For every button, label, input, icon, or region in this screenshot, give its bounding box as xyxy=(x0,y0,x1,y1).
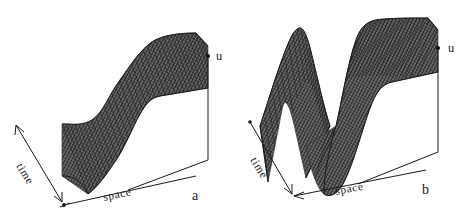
axis-u-a-arrowhead xyxy=(206,54,210,58)
panel-a: u space time a xyxy=(0,0,236,218)
panel-b: u space time b xyxy=(236,0,472,218)
surface-a xyxy=(62,33,229,196)
panel-b-letter: b xyxy=(422,182,430,197)
axis-u-b-label: u xyxy=(448,41,455,55)
axis-u-a-label: u xyxy=(216,49,223,63)
axis-u-b: u xyxy=(436,41,455,152)
panel-a-base-right xyxy=(128,160,208,190)
axis-time-a-label: time xyxy=(14,161,36,187)
axis-u-b-arrowhead xyxy=(436,46,440,50)
axis-time-b-arrowhead-bottom xyxy=(284,184,292,194)
panel-b-canvas: u space time b xyxy=(236,0,472,218)
axis-time-a: time xyxy=(14,125,62,202)
surface-b-plateau xyxy=(306,18,438,196)
axis-time-a-arrowhead-bottom xyxy=(54,192,62,202)
figure-root: u space time a xyxy=(0,0,472,218)
surface-a-mesh xyxy=(62,33,208,194)
axis-space-a-label: space xyxy=(102,185,133,204)
panel-b-base-right xyxy=(358,152,438,184)
axis-u-a: u xyxy=(206,49,223,160)
axis-time-b-arrowhead-top xyxy=(248,120,252,124)
panel-a-canvas: u space time a xyxy=(0,0,236,218)
panel-a-letter: a xyxy=(192,188,199,203)
surface-a-striations xyxy=(63,33,229,196)
